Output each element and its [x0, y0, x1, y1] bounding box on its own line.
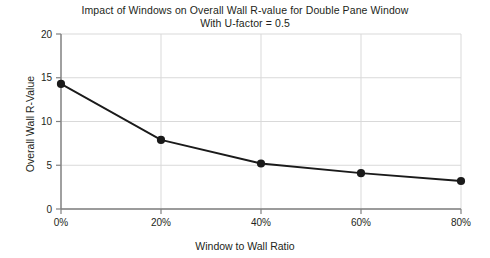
x-tick-label: 40%	[251, 217, 271, 228]
y-axis-title: Overall Wall R-Value	[24, 76, 36, 172]
y-tick-label: 15	[41, 72, 53, 83]
y-tick-label: 10	[41, 116, 53, 127]
line-chart-plot: 0%20%40%60%80% 05101520 Window to Wall R…	[0, 0, 490, 258]
x-tick-label: 80%	[451, 217, 471, 228]
x-tick-label: 20%	[151, 217, 171, 228]
x-tick-label: 60%	[351, 217, 371, 228]
data-point-marker	[57, 80, 65, 88]
x-axis-title: Window to Wall Ratio	[195, 240, 295, 252]
y-tick-label: 20	[41, 29, 53, 40]
data-point-marker	[457, 177, 465, 185]
x-tick-label: 0%	[54, 217, 69, 228]
y-tick-labels: 05101520	[41, 29, 53, 215]
axis-ticks	[56, 34, 461, 214]
gridlines	[61, 34, 461, 209]
y-tick-label: 0	[46, 204, 52, 215]
data-point-marker	[257, 159, 265, 167]
y-tick-label: 5	[46, 160, 52, 171]
data-point-marker	[357, 169, 365, 177]
x-tick-labels: 0%20%40%60%80%	[54, 217, 471, 228]
chart-figure: Impact of Windows on Overall Wall R-valu…	[0, 0, 490, 258]
data-point-marker	[157, 136, 165, 144]
